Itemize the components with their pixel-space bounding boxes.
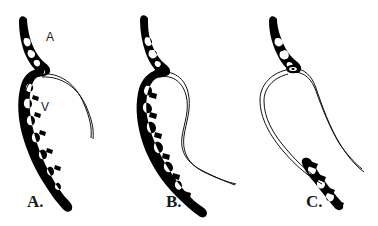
panel-caption-c: C. bbox=[306, 193, 323, 210]
panel-caption-a: A. bbox=[27, 193, 44, 210]
atrium-myocardium bbox=[19, 16, 50, 75]
panel-b bbox=[126, 0, 252, 226]
figure-canvas: A V bbox=[0, 0, 378, 226]
ventricle-myocardium bbox=[18, 69, 72, 212]
panel-b-drawing bbox=[126, 0, 252, 226]
label-ventricle: V bbox=[41, 101, 49, 113]
atrium-myocardium bbox=[269, 16, 301, 73]
label-atrium: A bbox=[46, 31, 54, 43]
atrioventricular-valve-ring bbox=[286, 65, 300, 74]
atrium-myocardium bbox=[140, 15, 170, 76]
panel-caption-b: B. bbox=[166, 193, 182, 210]
panel-a-drawing bbox=[0, 0, 126, 226]
panel-a: A V bbox=[0, 0, 126, 226]
